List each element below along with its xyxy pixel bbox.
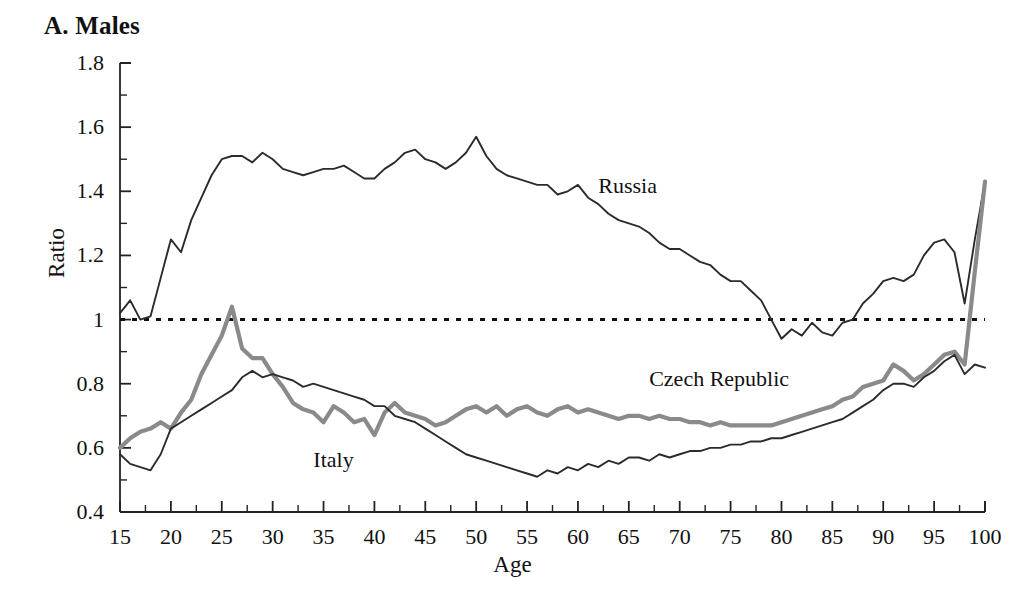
x-tick-label: 50	[465, 524, 487, 550]
y-tick-label: 1.8	[30, 50, 104, 76]
figure-root: A. Males Ratio Age 0.40.60.811.21.41.61.…	[0, 0, 1025, 608]
line-chart-plot	[0, 0, 1025, 608]
y-tick-label: 1	[30, 307, 104, 333]
y-tick-label: 0.8	[30, 371, 104, 397]
x-tick-label: 100	[969, 524, 1002, 550]
series-layer	[120, 137, 985, 477]
x-tick-label: 15	[109, 524, 131, 550]
x-tick-label: 85	[821, 524, 843, 550]
x-tick-label: 70	[669, 524, 691, 550]
y-tick-label: 1.2	[30, 242, 104, 268]
y-tick-label: 0.4	[30, 499, 104, 525]
x-tick-label: 95	[923, 524, 945, 550]
x-tick-label: 40	[363, 524, 385, 550]
x-tick-label: 35	[313, 524, 335, 550]
x-tick-label: 75	[720, 524, 742, 550]
series-line-italy	[120, 355, 985, 477]
x-tick-label: 20	[160, 524, 182, 550]
y-tick-label: 1.6	[30, 114, 104, 140]
x-tick-label: 25	[211, 524, 233, 550]
x-axis-label: Age	[0, 552, 1025, 578]
panel-title: A. Males	[44, 12, 140, 40]
x-tick-label: 65	[618, 524, 640, 550]
x-tick-label: 80	[770, 524, 792, 550]
y-tick-label: 1.4	[30, 178, 104, 204]
series-line-russia	[120, 137, 985, 339]
axes-layer	[120, 63, 985, 512]
series-label-russia: Russia	[598, 173, 657, 199]
series-label-czech-republic: Czech Republic	[649, 366, 789, 392]
x-tick-label: 30	[262, 524, 284, 550]
y-tick-label: 0.6	[30, 435, 104, 461]
series-label-italy: Italy	[313, 447, 353, 473]
x-tick-label: 90	[872, 524, 894, 550]
x-tick-label: 55	[516, 524, 538, 550]
x-tick-label: 45	[414, 524, 436, 550]
x-tick-label: 60	[567, 524, 589, 550]
